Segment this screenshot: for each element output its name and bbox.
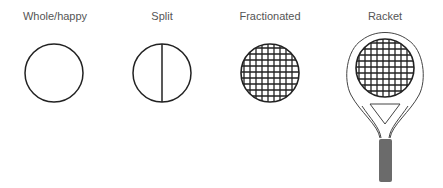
- split-circle-icon: [133, 44, 191, 102]
- fractionated-circle-icon: [238, 40, 302, 106]
- racket-icon: [347, 33, 424, 183]
- racket-handle: [379, 139, 392, 182]
- whole-circle-icon: [25, 44, 83, 102]
- diagram-canvas: [0, 0, 443, 188]
